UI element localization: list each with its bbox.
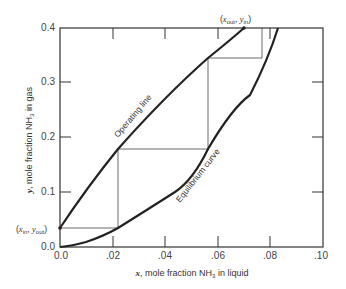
stage-staircase bbox=[60, 28, 262, 228]
chart: 0.0 0.1 0.2 0.3 0.4 0.0 .02 .04 .06 .08 … bbox=[0, 0, 346, 289]
x-ticks-top bbox=[113, 28, 270, 39]
x-tick-label-4: .08 bbox=[263, 250, 277, 261]
equilibrium-curve bbox=[60, 28, 278, 247]
bottom-point-label: (xin, yout) bbox=[16, 224, 47, 235]
x-ticks-bottom bbox=[113, 236, 270, 247]
plot-frame bbox=[60, 28, 323, 247]
x-tick-label-2: .04 bbox=[158, 250, 172, 261]
x-axis-label: x, mole fraction NH3 in liquid bbox=[135, 268, 249, 279]
x-tick-label-3: .06 bbox=[211, 250, 225, 261]
x-tick-label-0: 0.0 bbox=[54, 250, 68, 261]
point-top bbox=[242, 26, 246, 30]
y-ticks-right bbox=[312, 82, 323, 192]
x-tick-label-5: .10 bbox=[314, 250, 328, 261]
equilibrium-curve-label: Equilibrium curve bbox=[174, 146, 222, 204]
y-ticks-left bbox=[60, 82, 71, 192]
y-tick-label-2: 0.2 bbox=[41, 131, 55, 142]
x-tick-label-1: .02 bbox=[106, 250, 120, 261]
y-tick-label-4: 0.4 bbox=[41, 22, 55, 33]
y-tick-label-3: 0.3 bbox=[41, 76, 55, 87]
y-axis-label: y, mole fraction NH3 in gas bbox=[24, 87, 35, 194]
y-tick-label-1: 0.1 bbox=[41, 186, 55, 197]
top-point-label: (xout, yin) bbox=[220, 14, 251, 25]
point-bottom bbox=[58, 226, 62, 230]
